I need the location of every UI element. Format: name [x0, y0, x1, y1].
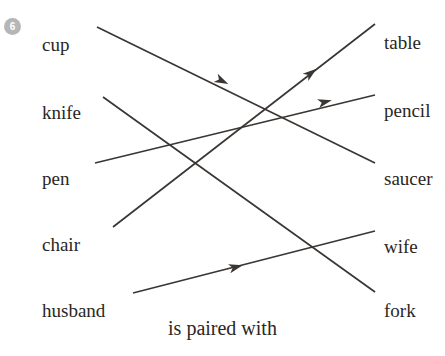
pair-line-husband-to-wife — [133, 231, 375, 293]
left-term-chair[interactable]: chair — [42, 235, 80, 254]
left-term-pen[interactable]: pen — [42, 169, 69, 188]
exercise-number-badge: 6 — [4, 18, 21, 35]
arrowhead-icon-chair — [303, 69, 317, 81]
arrowhead-icon-husband — [228, 264, 243, 273]
diagram-caption: is paired with — [0, 318, 445, 338]
right-term-saucer[interactable]: saucer — [384, 169, 433, 188]
arrowhead-icon-cup — [214, 74, 229, 84]
right-term-wife[interactable]: wife — [384, 237, 418, 256]
left-term-cup[interactable]: cup — [42, 35, 69, 54]
pair-line-chair-to-table — [113, 24, 375, 227]
right-term-pencil[interactable]: pencil — [384, 101, 430, 120]
pair-line-cup-to-saucer — [97, 27, 375, 163]
pair-line-knife-to-fork — [103, 97, 375, 292]
arrowhead-icon-pen — [317, 99, 332, 108]
left-term-knife[interactable]: knife — [42, 103, 81, 122]
right-term-table[interactable]: table — [384, 33, 421, 52]
pair-line-pen-to-pencil — [95, 95, 375, 163]
pairing-diagram: 6 cupknifepenchairhusband tablepencilsau… — [0, 0, 445, 356]
